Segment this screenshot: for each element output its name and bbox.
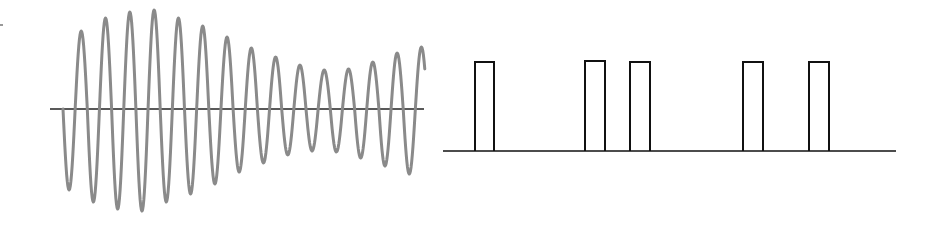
modulated-sine-wave: [63, 10, 425, 211]
rectangular-pulse-4: [743, 62, 763, 151]
rectangular-pulse-3: [630, 62, 650, 151]
pulse-train-panel: [443, 61, 896, 151]
waveform-figure: [0, 0, 936, 227]
rectangular-pulse-5: [809, 62, 829, 151]
rectangular-pulse-1: [475, 62, 494, 151]
rectangular-pulse-2: [585, 61, 605, 151]
pulse-group: [475, 61, 829, 151]
modulated-sine-panel: [50, 10, 425, 211]
